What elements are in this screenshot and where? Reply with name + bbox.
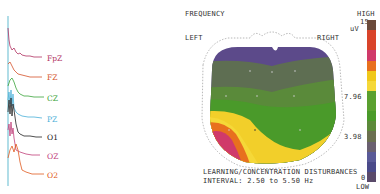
heatmap-bands — [200, 40, 345, 170]
caption-line-1: LEARNING/CONCENTRATION DISTURBANCES — [203, 168, 358, 176]
scale-min-value: 0 — [361, 174, 365, 182]
color-bar — [367, 20, 376, 182]
head-map — [0, 0, 380, 194]
scale-unit: uV — [350, 25, 359, 33]
scale-high-label: HIGH — [357, 10, 375, 18]
scale-low-label: LOW — [356, 183, 369, 191]
caption-line-2: INTERVAL: 2.50 to 5.50 Hz — [203, 177, 313, 185]
scale-value-3-98: 3.98 — [344, 133, 362, 141]
scale-value-7-96: 7.96 — [344, 93, 362, 101]
